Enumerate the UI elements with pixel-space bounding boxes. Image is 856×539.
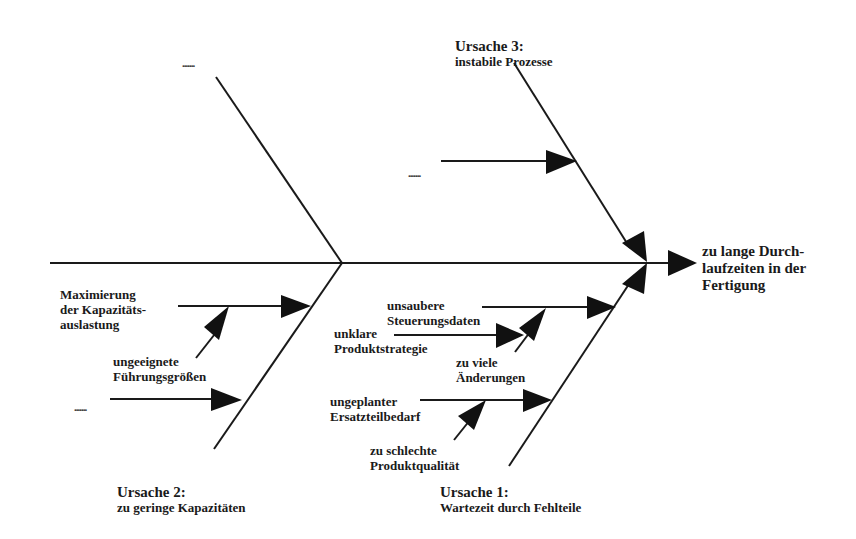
cause2-sub3-label: ....... (74, 400, 86, 415)
effect-line1: zu lange Durch- (702, 243, 806, 260)
bone-cause3 (514, 63, 630, 248)
cause1-subtitle: Wartezeit durch Fehlteile (440, 500, 581, 515)
cause1-sub3-line1: zu viele (456, 355, 525, 370)
cause1-sub5-label: zu schlechte Produktqualität (370, 443, 459, 473)
cause1-sub4-line2: Ersatzteilbedarf (330, 409, 420, 424)
cause1-sub1-line1: unsaubere (387, 298, 480, 313)
spine-arrowhead (668, 250, 697, 276)
bone-top-left (216, 77, 342, 263)
cause1-sub3-line2: Änderungen (456, 370, 525, 385)
cause1-title: Ursache 1: (440, 484, 581, 500)
top-left-placeholder: ....... (182, 56, 194, 71)
cause1-sub3-label: zu viele Änderungen (456, 355, 525, 385)
effect-line2: laufzeiten in der (702, 260, 806, 277)
cause1-sub3-arrowhead (519, 308, 546, 341)
cause1-sub5-line1: zu schlechte (370, 443, 459, 458)
cause2-label: Ursache 2: zu geringe Kapazitäten (117, 484, 246, 515)
cause2-sub2-line1: ungeeignete (113, 354, 206, 369)
effect-label: zu lange Durch- laufzeiten in der Fertig… (702, 243, 806, 294)
cause1-label: Ursache 1: Wartezeit durch Fehlteile (440, 484, 581, 515)
effect-line3: Fertigung (702, 277, 806, 294)
cause1-sub2-label: unklare Produktstrategie (334, 326, 428, 356)
cause2-title: Ursache 2: (117, 484, 246, 500)
cause3-arrowhead (622, 231, 647, 262)
cause1-sub1-label: unsaubere Steuerungsdaten (387, 298, 480, 328)
cause3-sub-placeholder: ....... (408, 166, 420, 181)
cause2-sub2-label: ungeeignete Führungsgrößen (113, 354, 206, 384)
cause2-sub2-arrowhead (204, 306, 229, 340)
cause1-sub2-line1: unklare (334, 326, 428, 341)
cause1-sub4-line1: ungeplanter (330, 394, 420, 409)
cause2-subtitle: zu geringe Kapazitäten (117, 500, 246, 515)
cause3-label: Ursache 3: instabile Prozesse (455, 38, 553, 69)
cause1-sub5-arrowhead (458, 400, 486, 430)
cause2-sub1-line3: auslastung (60, 317, 146, 332)
cause2-sub1-line2: der Kapazitäts- (60, 302, 146, 317)
bone-cause2 (214, 263, 342, 449)
cause2-sub1-line1: Maximierung (60, 287, 146, 302)
cause2-sub3-arrowhead (211, 388, 242, 411)
cause3-title: Ursache 3: (455, 38, 553, 54)
bone-cause1 (509, 281, 631, 466)
cause3-sub-arrowhead (546, 150, 577, 174)
cause2-sub1-label: Maximierung der Kapazitäts- auslastung (60, 287, 146, 332)
cause1-sub2-line2: Produktstrategie (334, 341, 428, 356)
cause1-sub5-line2: Produktqualität (370, 458, 459, 473)
cause3-subtitle: instabile Prozesse (455, 54, 553, 69)
cause2-sub2-line2: Führungsgrößen (113, 369, 206, 384)
cause1-sub1-arrowhead (587, 296, 616, 319)
cause1-sub4-label: ungeplanter Ersatzteilbedarf (330, 394, 420, 424)
